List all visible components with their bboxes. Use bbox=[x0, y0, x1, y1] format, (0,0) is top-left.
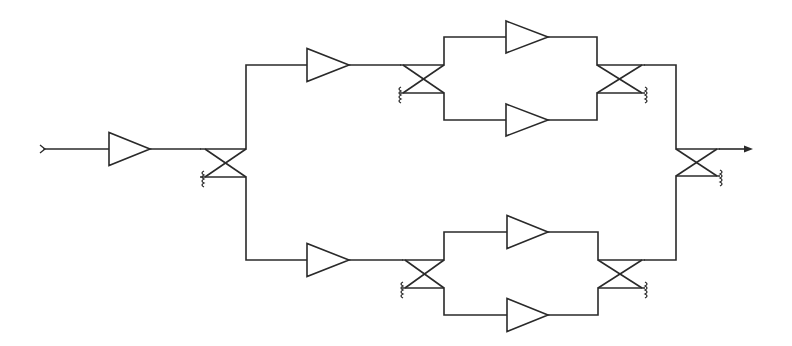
output-arrow-icon bbox=[744, 146, 753, 153]
amplifier-lower-branch-icon bbox=[307, 244, 349, 277]
lower-split-top-wire bbox=[444, 232, 507, 260]
input-port-marker bbox=[40, 145, 45, 153]
hybrid-coupler-upper-split-icon bbox=[399, 65, 444, 103]
couplers bbox=[200, 65, 722, 298]
termination-icon bbox=[401, 282, 403, 298]
amplifier-driver-icon bbox=[109, 133, 150, 166]
upper-branch-feed-wire bbox=[246, 65, 307, 149]
wires bbox=[40, 37, 753, 315]
hybrid-coupler-lower-combine-icon bbox=[598, 260, 647, 298]
amplifier-lower-top-icon bbox=[507, 216, 548, 249]
amplifiers bbox=[109, 21, 548, 332]
lower-combine-out-wire bbox=[645, 176, 676, 260]
hybrid-coupler-lower-split-icon bbox=[401, 260, 444, 298]
termination-icon bbox=[645, 282, 647, 298]
hybrid-coupler-input-split-icon bbox=[200, 149, 246, 187]
amplifier-upper-bottom-icon bbox=[506, 104, 548, 136]
lower-split-bottom-wire bbox=[444, 288, 507, 315]
upper-bottom-amp-out-wire bbox=[548, 93, 597, 120]
amplifier-upper-top-icon bbox=[506, 21, 548, 53]
lower-top-amp-out-wire bbox=[548, 232, 598, 260]
upper-split-top-wire bbox=[444, 37, 506, 65]
termination-icon bbox=[645, 87, 647, 103]
upper-split-bottom-wire bbox=[444, 93, 506, 120]
termination-icon bbox=[720, 170, 722, 186]
amplifier-network-diagram bbox=[0, 0, 792, 346]
upper-combine-out-wire bbox=[645, 65, 676, 149]
lower-branch-feed-wire bbox=[246, 177, 307, 260]
hybrid-coupler-upper-combine-icon bbox=[597, 65, 647, 103]
termination-icon bbox=[399, 87, 401, 103]
upper-top-amp-out-wire bbox=[548, 37, 597, 65]
amplifier-lower-bottom-icon bbox=[507, 299, 548, 332]
termination-icon bbox=[202, 171, 204, 187]
amplifier-upper-branch-icon bbox=[307, 49, 349, 82]
lower-bottom-amp-out-wire bbox=[548, 288, 598, 315]
hybrid-coupler-output-combine-icon bbox=[676, 149, 722, 186]
